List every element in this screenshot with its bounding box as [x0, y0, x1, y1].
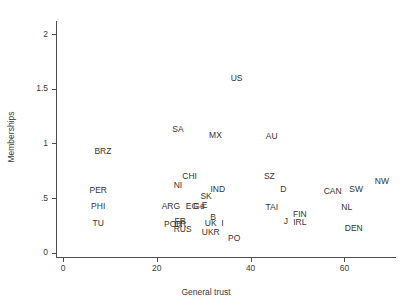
data-point-label: TAI: [265, 202, 278, 211]
x-tick-mark: [63, 258, 64, 262]
x-tick-label: 0: [48, 264, 78, 273]
x-tick-label: 20: [142, 264, 172, 273]
data-point-label: BRZ: [94, 147, 111, 156]
data-point-label: TU: [93, 219, 104, 228]
data-point-label: RUS: [174, 224, 192, 233]
plot-area: 0.511.52 0204060 USSAMXAUBRZCHISZNWNIPER…: [0, 0, 412, 308]
y-tick-label: .5: [18, 194, 48, 203]
data-point-label: MX: [209, 130, 222, 139]
x-tick-label: 40: [236, 264, 266, 273]
data-point-label: CAN: [324, 187, 342, 196]
data-point-label: AU: [266, 131, 278, 140]
y-tick-label: 2: [18, 30, 48, 39]
data-point-label: IND: [210, 185, 225, 194]
y-axis-title: Memberships: [6, 97, 16, 177]
y-axis-line: [56, 21, 57, 258]
x-tick-mark: [157, 258, 158, 262]
y-tick-mark: [52, 253, 56, 254]
data-point-label: I: [221, 219, 223, 228]
y-tick-mark: [52, 143, 56, 144]
data-point-label: J: [284, 216, 288, 225]
data-point-label: SA: [172, 125, 183, 134]
x-tick-mark: [251, 258, 252, 262]
data-point-label: PO: [228, 234, 240, 243]
y-tick-label: 1: [18, 139, 48, 148]
data-point-label: UKR: [202, 227, 220, 236]
x-tick-label: 60: [329, 264, 359, 273]
y-tick-label: 0: [18, 248, 48, 257]
data-point-label: PER: [89, 186, 106, 195]
data-point-label: SW: [349, 185, 363, 194]
x-axis-title: General trust: [0, 287, 412, 297]
data-point-label: DEN: [345, 223, 363, 232]
data-point-label: NI: [174, 180, 183, 189]
scatter-plot-figure: 0.511.52 0204060 USSAMXAUBRZCHISZNWNIPER…: [0, 0, 412, 308]
data-point-label: NW: [375, 176, 389, 185]
data-point-label: D: [280, 185, 286, 194]
y-tick-mark: [52, 89, 56, 90]
data-point-label: ARG: [162, 201, 180, 210]
data-point-label: CHI: [182, 172, 197, 181]
data-point-label: E: [202, 200, 208, 209]
y-tick-mark: [52, 198, 56, 199]
x-tick-mark: [344, 258, 345, 262]
data-point-label: US: [231, 73, 243, 82]
data-point-label: NL: [341, 202, 352, 211]
data-point-label: SZ: [264, 172, 275, 181]
y-tick-label: 1.5: [18, 84, 48, 93]
data-point-label: PHI: [91, 201, 105, 210]
data-point-label: IRL: [293, 218, 306, 227]
y-tick-mark: [52, 34, 56, 35]
